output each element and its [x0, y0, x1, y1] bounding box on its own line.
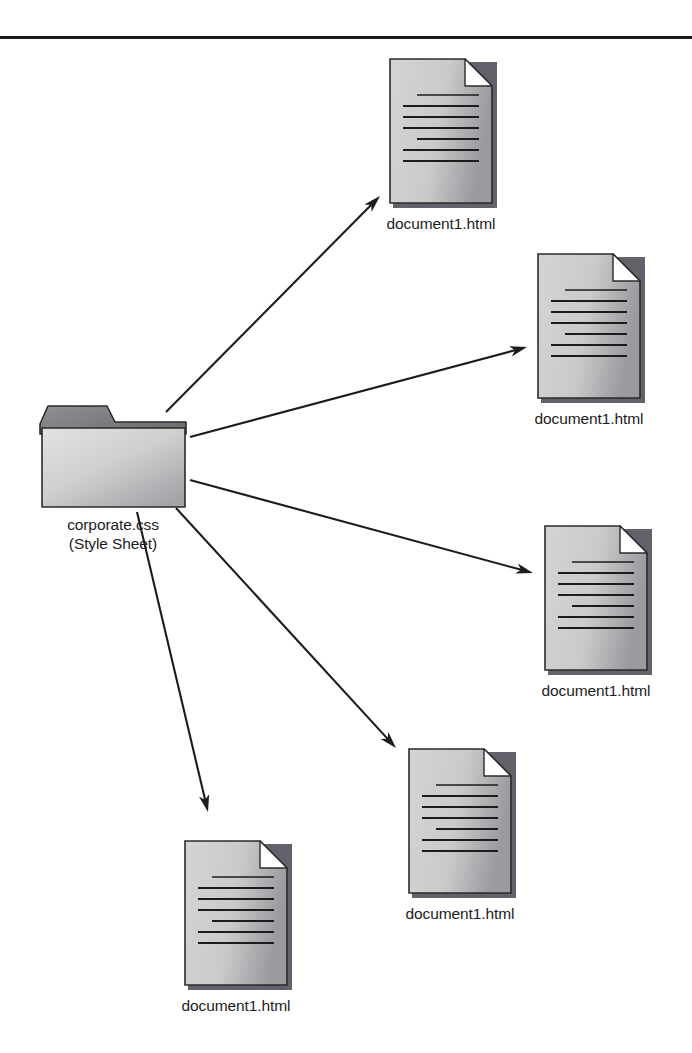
arrow-to-document-upper-right [190, 346, 527, 437]
document-corner-fold [613, 254, 640, 281]
document-page [408, 748, 512, 894]
document-icon[interactable] [408, 748, 512, 894]
arrow-shaft [137, 512, 205, 800]
document-icon[interactable] [537, 253, 641, 399]
arrow-to-document-bottom-center [176, 508, 396, 748]
source-node[interactable]: corporate.css (Style Sheet) [38, 404, 188, 510]
document-icon[interactable] [544, 525, 648, 671]
target-label: document1.html [542, 681, 651, 700]
document-page [389, 58, 493, 204]
document-icon[interactable] [184, 840, 288, 986]
document-page [544, 525, 648, 671]
document-lower-right[interactable]: document1.html [544, 525, 648, 671]
arrow-to-document-top [166, 196, 380, 412]
document-corner-fold [620, 526, 647, 553]
arrow-shaft [176, 508, 388, 739]
arrow-shaft [166, 205, 372, 412]
diagram-canvas: corporate.css (Style Sheet) document1.ht… [0, 0, 692, 1053]
folder-graphic [38, 404, 188, 510]
document-upper-right[interactable]: document1.html [537, 253, 641, 399]
arrow-to-document-lower-right [190, 480, 533, 574]
document-corner-fold [465, 59, 492, 86]
target-label: document1.html [182, 996, 291, 1015]
arrow-shaft [190, 350, 515, 437]
document-icon[interactable] [389, 58, 493, 204]
target-label: document1.html [406, 904, 515, 923]
target-label: document1.html [387, 214, 496, 233]
source-label: corporate.css (Style Sheet) [67, 515, 159, 553]
document-corner-fold [260, 841, 287, 868]
target-label: document1.html [535, 409, 644, 428]
document-bottom-center[interactable]: document1.html [408, 748, 512, 894]
document-corner-fold [484, 749, 511, 776]
arrow-shaft [190, 480, 521, 570]
document-page [537, 253, 641, 399]
arrow-to-document-bottom-left [137, 512, 209, 812]
document-bottom-left[interactable]: document1.html [184, 840, 288, 986]
source-label-line1: corporate.css [67, 515, 159, 534]
source-label-line2: (Style Sheet) [67, 534, 159, 553]
document-page [184, 840, 288, 986]
folder-front-panel [42, 428, 185, 507]
document-top[interactable]: document1.html [389, 58, 493, 204]
folder-icon[interactable] [38, 404, 188, 510]
